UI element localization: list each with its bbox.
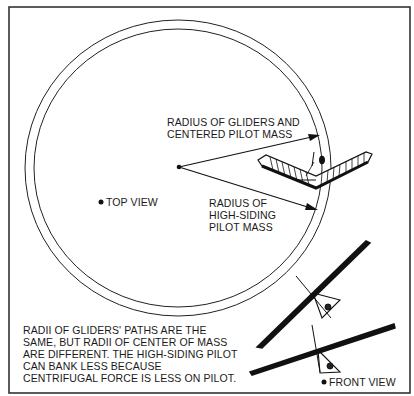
radius-high-siding-label: RADIUS OF HIGH-SIDING PILOT MASS [209, 197, 279, 233]
glider-turn-diagram: RADIUS OF GLIDERS AND CENTERED PILOT MAS… [0, 0, 414, 396]
front-view-label: FRONT VIEW [329, 376, 396, 388]
glider-top-view-icon [258, 152, 372, 188]
top-view-label: TOP VIEW [106, 196, 158, 208]
caption-text: RADII OF GLIDERS' PATHS ARE THE SAME, BU… [23, 324, 240, 384]
front-view-bullet [322, 380, 327, 385]
radius-gliders-label: RADIUS OF GLIDERS AND CENTERED PILOT MAS… [167, 116, 303, 140]
top-view-bullet [99, 200, 104, 205]
